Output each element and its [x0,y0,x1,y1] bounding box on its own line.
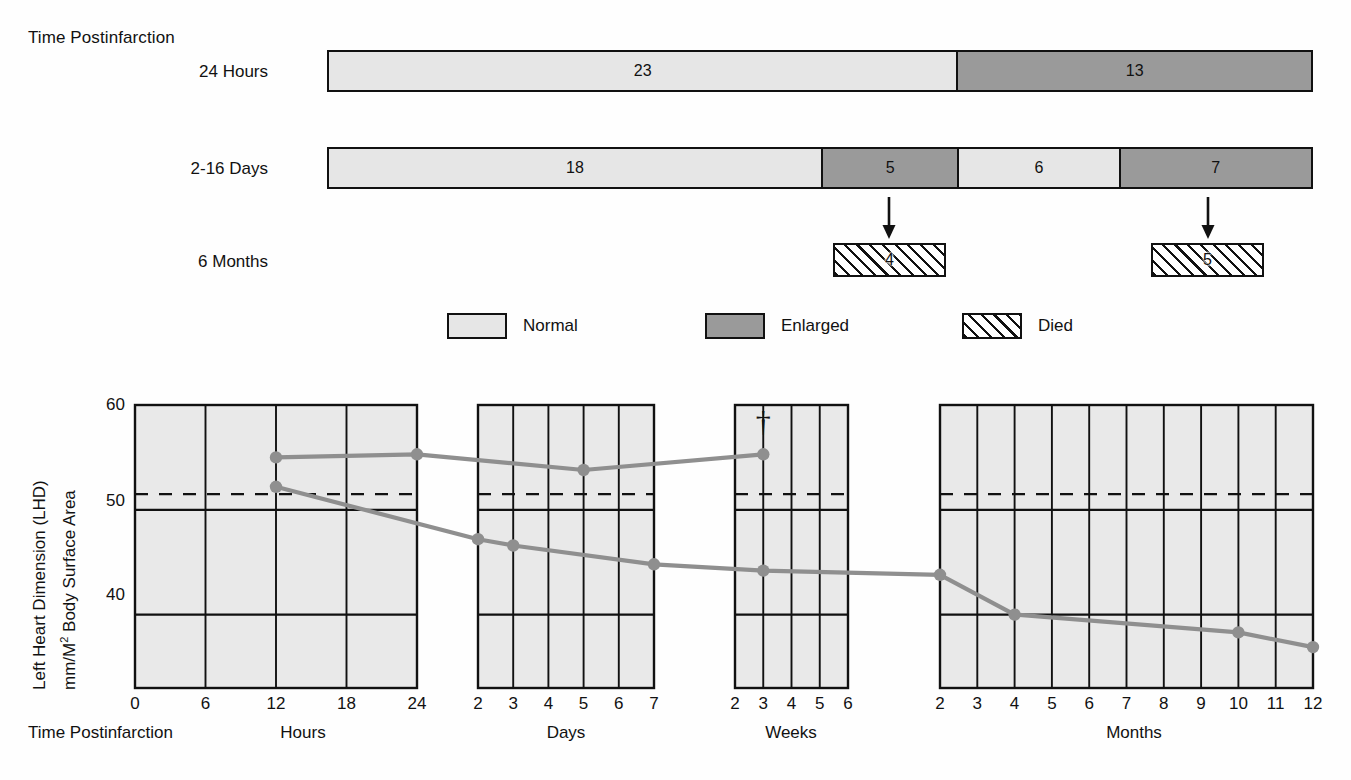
x-tick-months-6: 6 [1074,694,1104,714]
data-point-normal [1232,626,1244,638]
x-tick-months-10: 10 [1223,694,1253,714]
x-tick-days-7: 7 [639,694,669,714]
figure-root: Time Postinfarction 24 Hours 23 13 2-16 … [0,0,1351,780]
x-tick-weeks-2: 2 [720,694,750,714]
data-point-enlarged [757,448,769,460]
panel-title-weeks: Weeks [731,723,851,743]
data-point-enlarged [577,464,589,476]
death-dagger-annotation: † [756,404,771,437]
x-tick-weeks-4: 4 [777,694,807,714]
x-axis-label: Time Postinfarction [28,723,173,743]
x-tick-days-4: 4 [533,694,563,714]
data-point-normal [648,558,660,570]
x-tick-hours-12: 12 [261,694,291,714]
x-tick-days-2: 2 [463,694,493,714]
x-tick-weeks-6: 6 [833,694,863,714]
data-point-normal [757,564,769,576]
x-tick-hours-18: 18 [332,694,362,714]
panel-title-days: Days [506,723,626,743]
x-tick-days-5: 5 [569,694,599,714]
chart-plot-area: † [0,0,1351,780]
x-tick-weeks-3: 3 [748,694,778,714]
x-tick-months-7: 7 [1112,694,1142,714]
data-point-normal [507,539,519,551]
x-tick-hours-6: 6 [191,694,221,714]
x-tick-months-5: 5 [1037,694,1067,714]
data-point-normal [1008,608,1020,620]
panel-title-months: Months [1074,723,1194,743]
x-tick-weeks-5: 5 [805,694,835,714]
x-tick-months-9: 9 [1186,694,1216,714]
data-point-enlarged [411,448,423,460]
flow-died-value: 4 [885,251,894,269]
x-tick-months-11: 11 [1261,694,1291,714]
panel-title-hours: Hours [243,723,363,743]
data-point-enlarged [270,451,282,463]
x-tick-months-4: 4 [1000,694,1030,714]
flow-died-value: 5 [1203,251,1212,269]
data-point-normal [1307,641,1319,653]
x-tick-days-6: 6 [604,694,634,714]
x-tick-months-2: 2 [925,694,955,714]
x-tick-days-3: 3 [498,694,528,714]
x-tick-hours-0: 0 [120,694,150,714]
data-point-normal [472,533,484,545]
x-tick-months-3: 3 [962,694,992,714]
panel-background-days [478,405,654,688]
data-point-normal [270,481,282,493]
x-tick-months-12: 12 [1298,694,1328,714]
data-point-normal [934,569,946,581]
x-tick-months-8: 8 [1149,694,1179,714]
x-tick-hours-24: 24 [402,694,432,714]
